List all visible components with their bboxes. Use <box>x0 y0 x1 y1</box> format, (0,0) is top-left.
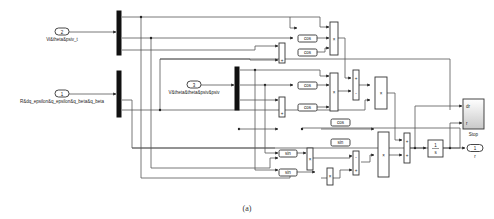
product-block-4[interactable]: × <box>307 148 313 170</box>
svg-text:×: × <box>333 37 336 42</box>
demux-1[interactable] <box>117 11 121 55</box>
outport-1-label: r <box>474 154 476 159</box>
svg-text:+: + <box>281 58 284 63</box>
svg-text:sin: sin <box>285 151 291 156</box>
sum-block-3[interactable]: + + <box>404 133 410 163</box>
demux-3[interactable] <box>235 67 239 110</box>
sum-block-2[interactable]: - + <box>353 151 359 175</box>
inport-2-label: Vi&theta&psiv_t <box>46 37 78 42</box>
integrator-block[interactable]: 1 s <box>428 140 443 157</box>
svg-text:×: × <box>309 157 312 162</box>
product-block-5[interactable]: × <box>327 168 333 185</box>
svg-text:cos: cos <box>337 120 345 125</box>
svg-text:×: × <box>380 91 383 96</box>
svg-text:+: + <box>281 111 284 116</box>
inport-3-label: V&theta&theta&psiv&psiv <box>168 90 220 95</box>
svg-text:cos: cos <box>304 50 312 55</box>
stop-scope-block[interactable]: dr r Stop <box>463 99 484 137</box>
simulink-diagram: 2 Vi&theta&psiv_t 1 R&dq_epsilon&q_epsil… <box>0 0 494 219</box>
svg-text:sin: sin <box>338 140 344 145</box>
sin-block-3[interactable]: sin <box>279 169 297 176</box>
cos-block-2[interactable]: cos <box>298 49 317 56</box>
cos-block-4[interactable]: cos <box>298 104 317 111</box>
inport-3[interactable]: 3 V&theta&theta&psiv&psiv <box>168 81 220 95</box>
svg-text:cos: cos <box>304 36 312 41</box>
product-block-1[interactable]: × <box>330 22 338 55</box>
svg-text:cos: cos <box>304 105 312 110</box>
svg-text:cos: cos <box>304 83 312 88</box>
svg-text:+: + <box>355 168 358 173</box>
demux-2[interactable] <box>117 71 121 117</box>
sin-block-2[interactable]: sin <box>279 150 297 157</box>
scope-port-dr: dr <box>466 104 471 109</box>
product-block-2[interactable]: × <box>330 73 338 111</box>
svg-text:×: × <box>333 90 336 95</box>
svg-text:+: + <box>406 139 409 144</box>
outport-1[interactable]: 1 r <box>467 145 483 160</box>
inport-1[interactable]: 1 R&dq_epsilon&q_epsilon&q_beta&q_beta <box>20 90 104 104</box>
inport-1-label: R&dq_epsilon&q_epsilon&q_beta&q_beta <box>20 99 104 104</box>
scope-label: Stop <box>469 132 479 137</box>
sum-block-a[interactable]: + <box>279 43 285 63</box>
product-block-6[interactable]: × <box>378 132 389 177</box>
figure-caption: (a) <box>243 204 252 213</box>
sum-block-1[interactable]: + - <box>353 70 359 100</box>
product-block-3[interactable]: × <box>375 77 387 109</box>
sum-block-b[interactable]: + <box>279 97 285 117</box>
svg-text:+: + <box>406 153 409 158</box>
svg-text:×: × <box>329 174 332 179</box>
cos-block-1[interactable]: cos <box>298 35 317 42</box>
inport-2[interactable]: 2 Vi&theta&psiv_t <box>46 28 78 42</box>
svg-text:sin: sin <box>285 170 291 175</box>
cos-block-5[interactable]: cos <box>331 119 350 126</box>
sin-block-1[interactable]: sin <box>331 139 350 146</box>
svg-text:×: × <box>382 153 385 158</box>
cos-block-3[interactable]: cos <box>298 82 317 89</box>
svg-text:+: + <box>355 76 358 81</box>
